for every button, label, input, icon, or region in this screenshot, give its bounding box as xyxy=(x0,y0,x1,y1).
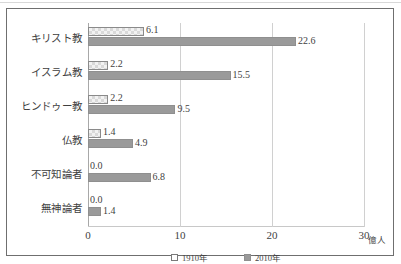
bar-row: キリスト教6.122.6 xyxy=(88,23,364,57)
bar-row: 無神論者0.01.4 xyxy=(88,193,364,227)
category-label: イスラム教 xyxy=(31,64,82,79)
x-tick-label-30: 30 xyxy=(359,229,370,241)
data-label-1910: 6.1 xyxy=(146,25,159,35)
bar-row: ヒンドゥー教2.29.5 xyxy=(88,91,364,125)
bar-row: イスラム教2.215.5 xyxy=(88,57,364,91)
chart-legend: 1910年 2010年 xyxy=(88,249,364,264)
bar-rows: キリスト教6.122.6イスラム教2.215.5ヒンドゥー教2.29.5仏教1.… xyxy=(88,23,364,227)
category-label: 不可知論者 xyxy=(31,166,82,181)
legend-item-2010[interactable]: 2010年 xyxy=(244,251,281,263)
data-label-1910: 2.2 xyxy=(110,59,123,69)
data-label-1910: 2.2 xyxy=(110,93,123,103)
data-label-1910: 1.4 xyxy=(103,127,116,137)
bar-2010[interactable] xyxy=(88,139,133,148)
bar-1910[interactable] xyxy=(88,61,108,70)
top-divider-rule xyxy=(0,2,401,3)
x-axis-unit-label: 億人 xyxy=(368,233,386,245)
category-label: 仏教 xyxy=(62,132,82,147)
x-tick-label-20: 20 xyxy=(267,229,278,241)
category-label: 無神論者 xyxy=(41,200,82,215)
bar-row: 仏教1.44.9 xyxy=(88,125,364,159)
bar-row: 不可知論者0.06.8 xyxy=(88,159,364,193)
data-label-2010: 1.4 xyxy=(103,206,116,216)
data-label-2010: 6.8 xyxy=(153,172,166,182)
data-label-2010: 9.5 xyxy=(177,104,190,114)
bar-1910[interactable] xyxy=(88,129,101,138)
legend-swatch-1910-icon xyxy=(171,254,178,261)
category-label: キリスト教 xyxy=(31,30,82,45)
data-label-2010: 15.5 xyxy=(233,70,251,80)
bar-2010[interactable] xyxy=(88,71,231,80)
bar-1910[interactable] xyxy=(88,27,144,36)
category-label: ヒンドゥー教 xyxy=(21,98,82,113)
plot-area: キリスト教6.122.6イスラム教2.215.5ヒンドゥー教2.29.5仏教1.… xyxy=(88,23,364,227)
bar-2010[interactable] xyxy=(88,37,296,46)
legend-item-1910[interactable]: 1910年 xyxy=(171,251,208,263)
bar-1910[interactable] xyxy=(88,95,108,104)
data-label-1910: 0.0 xyxy=(90,161,103,171)
x-tick-label-10: 10 xyxy=(175,229,186,241)
x-tick-label-0: 0 xyxy=(85,229,91,241)
bar-2010[interactable] xyxy=(88,207,101,216)
x-axis-ticks: 億人 0102030 xyxy=(88,229,364,245)
legend-label-2010: 2010年 xyxy=(255,251,281,263)
data-label-2010: 4.9 xyxy=(135,138,148,148)
legend-swatch-2010-icon xyxy=(244,254,251,261)
bar-2010[interactable] xyxy=(88,105,175,114)
data-label-1910: 0.0 xyxy=(90,195,103,205)
data-label-2010: 22.6 xyxy=(298,36,316,46)
chart-frame: キリスト教6.122.6イスラム教2.215.5ヒンドゥー教2.29.5仏教1.… xyxy=(6,8,394,256)
gridline-30 xyxy=(364,23,365,227)
bar-2010[interactable] xyxy=(88,173,151,182)
legend-label-1910: 1910年 xyxy=(182,251,208,263)
